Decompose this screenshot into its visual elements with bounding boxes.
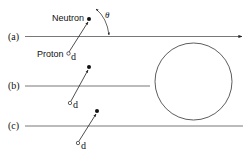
theta-label: θ — [105, 10, 110, 20]
deuteron-origin-a — [67, 52, 70, 55]
deuteron-stripping-diagram: (a) Neutron Proton d θ (b) d (c) d — [0, 0, 250, 154]
neutron-dot — [87, 17, 91, 21]
neutron-dot-c — [95, 109, 99, 113]
deuteron-arrow-c — [79, 114, 96, 141]
panel-b: (b) d — [8, 65, 150, 110]
d-label-b: d — [73, 99, 78, 110]
panel-a: (a) Neutron Proton d θ — [8, 9, 242, 62]
deuteron-arrow-a — [69, 22, 88, 52]
panel-a-label: (a) — [8, 31, 19, 43]
d-label-c: d — [81, 140, 86, 151]
deuteron-origin-c — [76, 141, 79, 144]
deuteron-origin-b — [68, 101, 71, 104]
panel-b-label: (b) — [8, 80, 20, 92]
panel-c-label: (c) — [8, 120, 19, 132]
neutron-dot-b — [87, 65, 91, 69]
deuteron-arrow-b — [71, 70, 88, 101]
d-label-a: d — [71, 51, 76, 62]
panel-c: (c) d — [8, 109, 243, 151]
nucleus-circle — [155, 43, 232, 120]
neutron-label: Neutron — [52, 13, 84, 23]
proton-label: Proton — [37, 49, 64, 59]
